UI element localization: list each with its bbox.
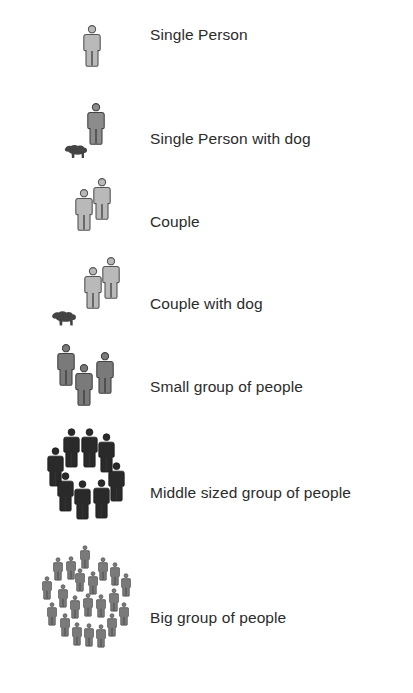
legend-label: Big group of people: [150, 609, 286, 627]
legend-row-big-group: Big group of people: [0, 0, 413, 660]
big-group-icon: [0, 0, 150, 660]
